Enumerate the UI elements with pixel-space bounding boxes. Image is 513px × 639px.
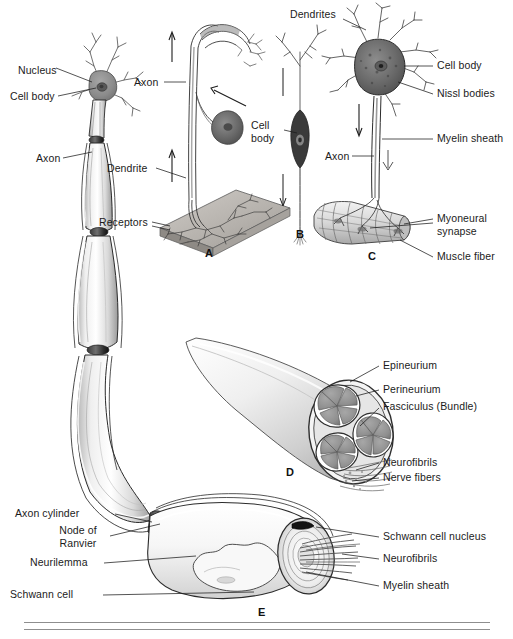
panel-e-fiber-detail <box>148 494 360 599</box>
label-muscle-fiber-c: Muscle fiber <box>437 250 495 263</box>
impulse-arrow <box>169 32 175 182</box>
impulse-arrow <box>356 104 362 136</box>
label-axon-main: Axon <box>36 152 60 165</box>
panel-id-c: C <box>368 250 376 262</box>
panel-id-d: D <box>286 466 294 478</box>
label-nissl-bodies-c: Nissl bodies <box>437 87 495 100</box>
main-neuron-figure <box>71 33 170 535</box>
label-perineurium-d: Perineurium <box>383 383 441 396</box>
label-nerve-fibers-d: Nerve fibers <box>383 471 441 484</box>
label-nucleus: Nucleus <box>18 64 57 77</box>
footer-rule-bottom <box>24 629 490 630</box>
label-neurilemma-e: Neurilemma <box>30 556 88 569</box>
label-myelin-sheath-e: Myelin sheath <box>383 579 449 592</box>
panel-c-motor-neuron <box>314 3 438 244</box>
label-schwann-cell-nucleus-e: Schwann cell nucleus <box>383 530 486 543</box>
label-cell-body-c: Cell body <box>437 59 482 72</box>
label-axon-b: Axon <box>325 150 349 163</box>
panel-id-e: E <box>258 606 265 618</box>
label-fasciculus-d: Fasciculus (Bundle) <box>383 400 477 413</box>
label-schwann-cell-e: Schwann cell <box>10 588 73 601</box>
label-neurofibrils-d: Neurofibrils <box>383 456 437 469</box>
label-cell-body-b: Cell body <box>251 119 281 144</box>
label-dendrites-c: Dendrites <box>290 8 336 21</box>
label-axon-cylinder-e: Axon cylinder <box>15 507 79 520</box>
neuron-anatomy-plate: Nucleus Cell body Axon Axon Dendrite Rec… <box>0 0 513 639</box>
label-myoneural-synapse-c: Myoneural synapse <box>437 212 505 237</box>
label-dendrite-a: Dendrite <box>107 162 148 175</box>
label-cell-body-main: Cell body <box>10 90 55 103</box>
label-neurofibrils-e: Neurofibrils <box>383 552 437 565</box>
panel-id-a: A <box>205 247 213 259</box>
footer-rule-top <box>24 622 490 623</box>
impulse-arrow <box>211 86 246 106</box>
main-neuron-cell-body <box>72 33 143 116</box>
node-of-ranvier <box>90 228 108 237</box>
panel-id-b: B <box>296 228 304 240</box>
node-of-ranvier <box>87 345 109 355</box>
label-epineurium-d: Epineurium <box>383 359 437 372</box>
label-axon-a: Axon <box>134 76 158 89</box>
label-receptors-a: Receptors <box>99 216 148 229</box>
label-node-of-ranvier-e: Node of Ranvier <box>50 524 106 549</box>
label-myelin-sheath-c: Myelin sheath <box>437 132 503 145</box>
